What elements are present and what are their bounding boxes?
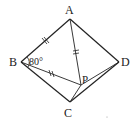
segment-ap [70,19,81,85]
equal-mark-ap [73,50,79,54]
label-c: C [64,106,72,120]
label-b: B [9,55,17,69]
geometry-diagram: A B C D P 80° [0,0,137,128]
stray-dot [107,117,108,118]
segment-cp [70,85,81,102]
label-d: D [121,55,130,69]
segment-cd [70,62,119,102]
label-p: P [82,73,88,85]
segment-bc [21,62,70,102]
label-a: A [65,3,74,17]
angle-label-80: 80° [29,56,43,67]
segment-ad [70,19,119,62]
